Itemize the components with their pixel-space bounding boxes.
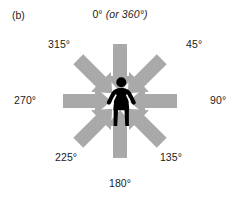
label-180-degrees: 180°: [109, 178, 131, 189]
label-0-degrees-alt: (or 360°): [106, 8, 148, 20]
person-head: [116, 77, 126, 87]
label-270-degrees: 270°: [14, 95, 36, 106]
label-45-degrees-main: 45°: [186, 38, 202, 50]
label-225-degrees-main: 225°: [55, 151, 77, 163]
label-315-degrees: 315°: [48, 39, 70, 50]
figure-panel-b: (b): [0, 0, 235, 200]
label-90-degrees: 90°: [210, 95, 226, 106]
label-225-degrees: 225°: [55, 152, 77, 163]
label-180-degrees-main: 180°: [109, 177, 131, 189]
label-135-degrees-main: 135°: [160, 151, 182, 163]
label-0-degrees-main: 0°: [92, 8, 102, 20]
label-90-degrees-main: 90°: [210, 94, 226, 106]
label-135-degrees: 135°: [160, 152, 182, 163]
label-270-degrees-main: 270°: [14, 94, 36, 106]
label-315-degrees-main: 315°: [48, 38, 70, 50]
label-45-degrees: 45°: [186, 39, 202, 50]
label-0-degrees: 0° (or 360°): [92, 9, 147, 20]
